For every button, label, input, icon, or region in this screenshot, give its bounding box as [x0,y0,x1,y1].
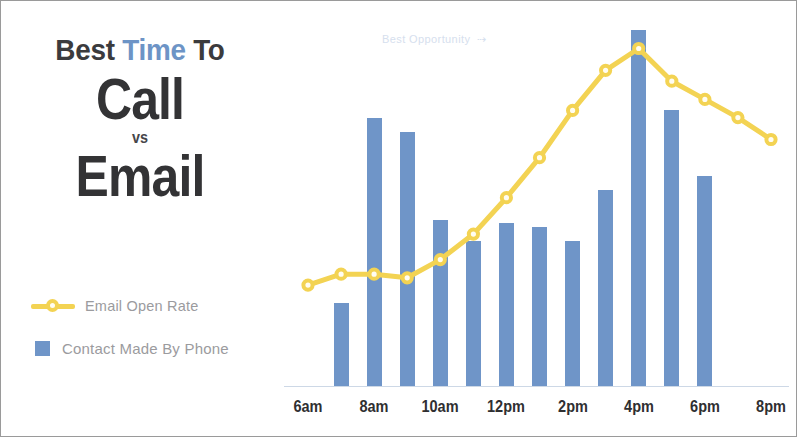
x-tick-2pm: 2pm [558,397,588,416]
legend-item-contact-made-by-phone[interactable]: Contact Made By Phone [31,331,281,365]
line-circle-marker-icon [31,299,75,313]
line-marker-8am [370,270,379,279]
line-marker-6am [303,281,312,290]
x-tick-12pm: 12pm [487,397,525,416]
legend-label-email-open-rate: Email Open Rate [85,298,198,314]
line-marker-3pm [601,66,610,75]
square-swatch-icon [35,341,50,356]
x-axis-line [284,386,789,388]
x-tick-4pm: 4pm [624,397,654,416]
line-marker-11am [469,230,478,239]
chart-area: Best Opportunity ⇢ [284,9,789,395]
line-marker-2pm [568,106,577,115]
line-marker-12pm [502,193,511,202]
x-tick-10am: 10am [422,397,459,416]
line-marker-6pm [700,95,709,104]
line-marker-5pm [667,77,676,86]
title-word-to: To [186,33,225,66]
email-open-rate-line [308,49,771,286]
plot-region [284,9,789,387]
title-word-call: Call [20,71,259,128]
line-marker-10am [436,255,445,264]
title-word-email: Email [20,148,259,205]
line-marker-8pm [766,135,775,144]
title-word-best: Best [55,33,122,66]
legend-label-contact-made-by-phone: Contact Made By Phone [62,340,229,357]
x-tick-8am: 8am [360,397,389,416]
line-series [284,9,789,387]
legend-item-email-open-rate[interactable]: Email Open Rate [31,289,281,323]
line-marker-7pm [733,113,742,122]
line-marker-9am [403,273,412,282]
x-tick-6pm: 6pm [690,397,720,416]
infographic-canvas: Best Time To Call vs Email Email Open Ra… [0,0,797,437]
x-axis-labels: 6am8am10am12pm2pm4pm6pm8pm [284,397,789,431]
title-panel: Best Time To Call vs Email [1,35,279,205]
page-title-line1: Best Time To [11,35,270,65]
line-marker-4pm [634,44,643,53]
line-marker-1pm [535,153,544,162]
line-marker-7am [337,270,346,279]
chart-legend: Email Open Rate Contact Made By Phone [31,289,281,365]
x-tick-8pm: 8pm [756,397,786,416]
x-tick-6am: 6am [293,397,322,416]
title-word-time: Time [122,33,186,66]
